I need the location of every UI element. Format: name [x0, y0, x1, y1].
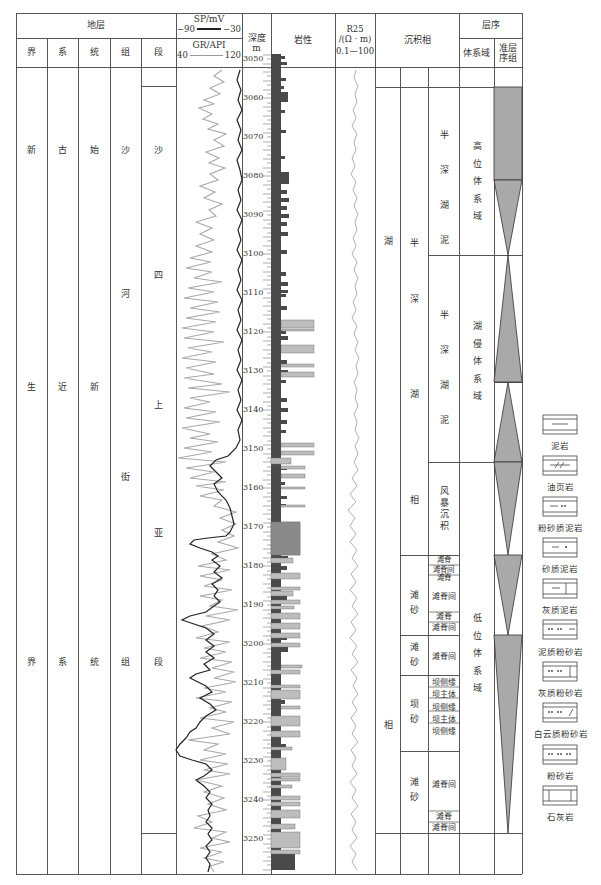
- microfacies-label: 滩脊: [428, 811, 459, 822]
- legend-label-limestone: 石灰岩: [530, 810, 590, 822]
- systems-tract-char: 低: [462, 610, 492, 628]
- microfacies-label: 滩脊间: [428, 590, 459, 601]
- gr-curve: [178, 70, 238, 872]
- systems-tract-char: 体: [462, 353, 492, 371]
- microfacies-group-1c: 滩脊 滩脊间: [428, 611, 459, 633]
- microfacies-label: 滩脊间: [428, 778, 459, 789]
- microfacies-label: 坝主体: [428, 689, 459, 701]
- microfacies-label: 滩脊间: [428, 822, 459, 833]
- facies-char: 半: [430, 298, 458, 333]
- facies-storm-deposit: 风 暴 沉 积: [430, 486, 458, 533]
- systems-tract-char: 侵: [462, 336, 492, 354]
- facies-col1-char: 湖: [381, 234, 395, 247]
- facies-char: 砂: [402, 790, 426, 805]
- systems-tract-char: 域: [462, 680, 492, 698]
- legend-label-argillaceous-siltstone: 泥质粉砂岩: [527, 645, 593, 657]
- facies-tansha-1: 滩 砂: [402, 588, 426, 619]
- facies-char: 湖: [430, 188, 458, 223]
- microfacies-label: 滩脊: [428, 555, 459, 565]
- systems-tract-hst: 高 位 体 系 域: [462, 138, 492, 226]
- facies-tansha-3: 滩 砂: [402, 775, 426, 806]
- facies-bsh-upper: 半 深 湖 泥: [430, 118, 458, 258]
- systems-tract-char: 高: [462, 138, 492, 156]
- facies-char: 风: [430, 486, 458, 498]
- lithology-column: [271, 54, 314, 870]
- systems-tract-char: 湖: [462, 318, 492, 336]
- facies-col2-char: 相: [407, 493, 421, 506]
- legend-label-sandy-mudstone: 砂质泥岩: [530, 562, 590, 574]
- microfacies-label: 坝侧缘: [428, 726, 459, 738]
- systems-tract-tst: 湖 侵 体 系 域: [462, 318, 492, 406]
- facies-char: 沉: [430, 509, 458, 521]
- systems-tract-char: 系: [462, 191, 492, 209]
- legend-dots: [548, 505, 571, 755]
- systems-tract-lst: 低 位 体 系 域: [462, 610, 492, 698]
- legend-label-mudstone: 泥岩: [530, 439, 590, 451]
- facies-char: 滩: [402, 775, 426, 790]
- facies-char: 半: [430, 118, 458, 153]
- systems-tract-char: 位: [462, 156, 492, 174]
- microfacies-label: 坝主体: [428, 714, 459, 726]
- facies-char: 深: [430, 333, 458, 368]
- facies-basha: 坝 砂: [402, 697, 426, 728]
- facies-char: 滩: [402, 588, 426, 603]
- facies-char: 砂: [402, 712, 426, 727]
- facies-char: 湖: [430, 368, 458, 403]
- facies-char: 泥: [430, 223, 458, 258]
- facies-tansha-2: 滩 砂: [402, 640, 426, 671]
- facies-col1-char: 相: [381, 718, 395, 731]
- legend-label-siltstone: 粉砂岩: [530, 769, 590, 781]
- facies-char: 滩: [402, 640, 426, 655]
- facies-col2-char: 深: [407, 292, 421, 305]
- legend-label-oil-shale: 油页岩: [530, 480, 590, 492]
- facies-char: 坝: [402, 697, 426, 712]
- parasequence-triangles: [494, 87, 522, 833]
- legend-label-calcareous-mudstone: 灰质泥岩: [530, 603, 590, 615]
- microfacies-label: 滩脊间: [428, 622, 459, 633]
- facies-char: 深: [430, 153, 458, 188]
- microfacies-group-3: 坝侧缘 坝主体 坝侧缘 坝主体 坝侧缘: [428, 677, 459, 738]
- facies-char: 积: [430, 521, 458, 533]
- facies-col2-char: 半: [407, 236, 421, 249]
- systems-tract-char: 体: [462, 645, 492, 663]
- microfacies-label: 坝侧缘: [428, 677, 459, 689]
- log-graphics: [0, 0, 601, 885]
- systems-tract-char: 域: [462, 388, 492, 406]
- systems-tract-char: 体: [462, 173, 492, 191]
- microfacies-group-4b: 滩脊 滩脊间: [428, 811, 459, 833]
- depth-ticks: [263, 55, 271, 870]
- facies-col2-char: 湖: [407, 387, 421, 400]
- facies-char: 暴: [430, 498, 458, 510]
- systems-tract-char: 域: [462, 208, 492, 226]
- systems-tract-char: 位: [462, 628, 492, 646]
- systems-tract-char: 系: [462, 663, 492, 681]
- microfacies-label: 滩脊: [428, 611, 459, 622]
- systems-tract-char: 系: [462, 371, 492, 389]
- legend-label-calcareous-siltstone: 灰质粉砂岩: [527, 686, 593, 698]
- facies-char: 砂: [402, 603, 426, 618]
- legend-label-dolomitic-siltstone: 白云质粉砂岩: [524, 727, 598, 739]
- microfacies-label: 坝侧缘: [428, 702, 459, 714]
- facies-char: 泥: [430, 403, 458, 438]
- facies-char: 砂: [402, 655, 426, 670]
- r25-curve: [348, 70, 359, 870]
- facies-bsh-lower: 半 深 湖 泥: [430, 298, 458, 438]
- microfacies-label: 滩脊间: [428, 650, 459, 661]
- microfacies-group-1: 滩脊 滩脊间 滩脊: [428, 555, 459, 583]
- legend-label-silty-mudstone: 粉砂质泥岩: [530, 521, 590, 533]
